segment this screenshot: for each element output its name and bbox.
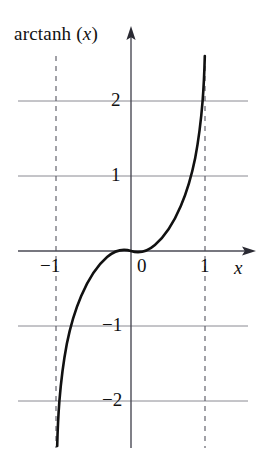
plot-title-paren-close: ) xyxy=(91,23,98,44)
plot-title-function: arctanh ( xyxy=(14,23,83,44)
x-axis-label: x xyxy=(234,258,242,278)
y-tick-label-minus-1: −1 xyxy=(102,315,122,335)
x-tick-label-1: 1 xyxy=(200,256,210,276)
x-tick-label-minus-1: −1 xyxy=(40,256,60,276)
y-tick-label-1: 1 xyxy=(111,165,121,185)
plot-canvas xyxy=(0,0,266,468)
x-tick-label-0: 0 xyxy=(137,256,147,276)
arctanh-plot-figure: arctanh (x) 2 1 −1 −2 −1 0 1 x xyxy=(0,0,266,468)
y-tick-label-minus-2: −2 xyxy=(102,390,122,410)
axes xyxy=(18,26,256,448)
y-tick-label-2: 2 xyxy=(111,90,121,110)
page-title: arctanh (x) xyxy=(14,23,98,45)
